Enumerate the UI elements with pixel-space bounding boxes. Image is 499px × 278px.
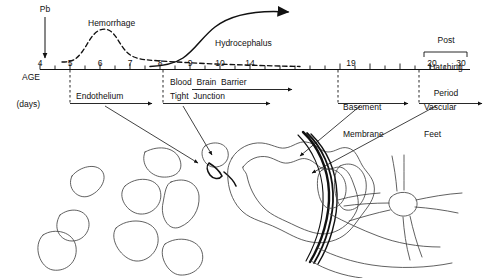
tick-label-10: 10: [212, 59, 228, 68]
post-hatching-period-label: Post Hatching Period: [416, 18, 476, 116]
group-label-endothelium: Endothelium: [76, 92, 123, 101]
hydrocephalus-label: Hydrocephalus: [215, 39, 272, 48]
tick-label-14: 14: [242, 59, 258, 68]
figure-canvas: AGE (days) 4 5 6 7 8 9 10 14 19 20 30 Pb…: [0, 0, 499, 278]
group-label-blood-brain-barrier: Blood Brain Barrier: [170, 78, 247, 87]
pb-marker-label: Pb: [35, 5, 55, 14]
tick-label-19: 19: [343, 59, 359, 68]
hemorrhage-label: Hemorrhage: [88, 19, 135, 28]
leader-lines: [105, 106, 436, 173]
tick-label-7: 7: [124, 59, 136, 68]
capillary-anatomy-drawing: [38, 132, 462, 278]
tick-label-6: 6: [94, 59, 106, 68]
tick-label-5: 5: [64, 59, 76, 68]
tick-label-8: 8: [154, 59, 166, 68]
tick-label-9: 9: [184, 59, 196, 68]
group-label-tight-junction: Tight Junction: [170, 92, 225, 101]
tick-label-4: 4: [34, 59, 46, 68]
group-label-basement-membrane: Basement Membrane: [343, 85, 384, 156]
